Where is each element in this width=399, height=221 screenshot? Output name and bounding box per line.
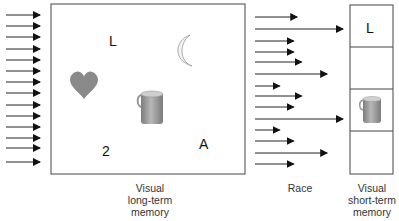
- moon-icon: [178, 35, 192, 66]
- stm-mug-icon: [360, 97, 381, 124]
- memory-race-diagram: L 2 A L: [0, 0, 399, 221]
- ltm-label-line: Visual: [110, 182, 190, 194]
- stm-label-line: Visual: [342, 182, 399, 194]
- mug-icon: [138, 91, 163, 124]
- race-label-text: Race: [275, 182, 325, 194]
- ltm-label: Visual long-term memory: [110, 182, 190, 218]
- ltm-letter-2: 2: [102, 143, 110, 159]
- ltm-label-line: memory: [110, 206, 190, 218]
- ltm-letter-a: A: [199, 136, 209, 152]
- stm-label-line: short-term: [342, 194, 399, 206]
- race-arrows: [255, 17, 343, 164]
- heart-icon: [70, 71, 98, 99]
- race-label: Race: [275, 182, 325, 194]
- stm-slot-letter-l: L: [366, 20, 374, 36]
- ltm-letter-l: L: [109, 33, 117, 49]
- ltm-label-line: long-term: [110, 194, 190, 206]
- input-arrows: [6, 15, 40, 162]
- stm-label-line: memory: [342, 206, 399, 218]
- stm-label: Visual short-term memory: [342, 182, 399, 218]
